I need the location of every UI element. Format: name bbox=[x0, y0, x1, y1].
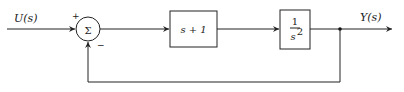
controller-block: s + 1 bbox=[170, 11, 217, 47]
output-label: Y(s) bbox=[360, 11, 382, 24]
block-diagram: U(s) Σ + − s + 1 1 s 2 Y(s) bbox=[0, 0, 404, 92]
plant-block: 1 s 2 bbox=[280, 10, 310, 49]
plant-exponent: 2 bbox=[297, 26, 303, 37]
minus-sign: − bbox=[97, 40, 105, 50]
input-signal: U(s) bbox=[7, 12, 75, 29]
input-label: U(s) bbox=[14, 12, 38, 25]
output-signal: Y(s) bbox=[310, 11, 392, 31]
plant-denominator: s bbox=[290, 31, 295, 42]
controller-transfer-function: s + 1 bbox=[180, 24, 206, 35]
sigma-symbol: Σ bbox=[84, 25, 91, 36]
plus-sign: + bbox=[72, 11, 80, 21]
